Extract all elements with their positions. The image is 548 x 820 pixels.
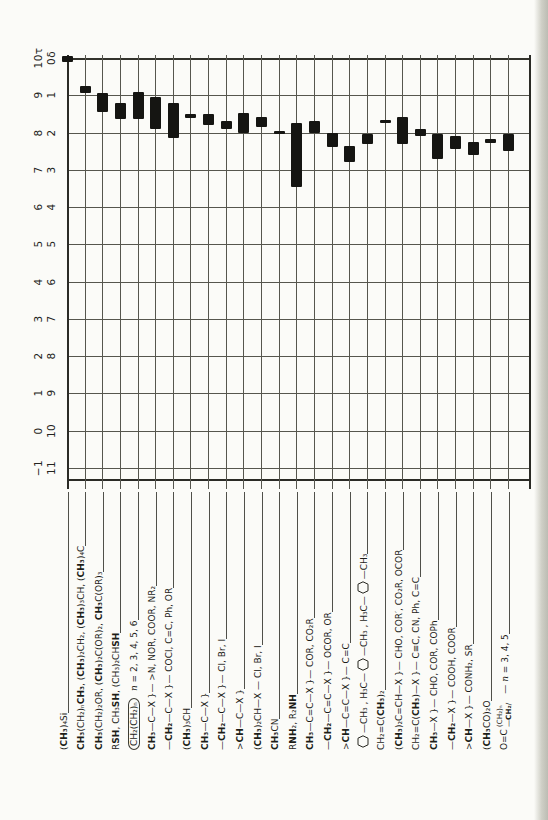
compound-label: CH₃(CH₂)ₙCH₃, (CH₃)₂CH₂, (CH₃)₃CH, (CH₃)… [74,492,88,750]
shift-range-bar [97,93,108,112]
shift-range-bar [468,142,479,155]
grid-line-v [508,55,509,489]
delta-tick-label: 1 [32,76,70,114]
label-rule [434,492,439,620]
compound-label: CH₃—X }— CHO, COR, COPh [427,492,441,750]
label-rule [328,492,333,612]
shift-range-bar [432,134,443,158]
shift-range-bar [168,103,179,138]
compound-label: O=C(CH₂)ₙ—CH₂/— n = 3, 4, 5 [498,492,512,750]
benzene-ring-icon [357,581,369,594]
compound-label: CH₃CN [268,492,282,750]
grid-line-v [349,55,350,489]
grid-line-v [296,55,297,489]
compound-label: (CH₃)₄Si [57,492,71,750]
shift-range-bar [485,139,496,142]
label-rule [399,492,404,550]
compound-formula: CH₂=C(CH₃)—X }— C≡C, CN, Ph, C=C [411,577,421,750]
grid-line-v [85,55,86,489]
label-rule [381,492,386,690]
shift-range-bar [503,134,514,151]
label-rule [205,492,210,693]
label-rule [134,492,139,620]
compound-formula: CH₂(CH₂)ₙn = 2, 3, 4, 5, 6 [129,620,139,750]
label-rule [187,492,192,708]
compound-label: RNH₂, R₂NH [286,492,300,750]
grid-line-v [102,55,103,489]
compound-formula: >CH—C—X } [235,689,245,750]
delta-tick-label: 7 [32,300,70,338]
label-rule [487,492,492,701]
label-rule [222,492,227,639]
label-rule [416,492,421,577]
compound-formula: CH₃—X }— CHO, COR, COPh [429,620,439,750]
shift-range-bar [344,146,355,163]
label-rule [258,492,263,645]
shift-range-bar [362,134,373,143]
scanned-chart-page: 10τ9876543210−1 0δ1234567891011 (CH₃)₄Si… [0,0,548,820]
grid-line-v [420,55,421,489]
compound-formula: (CH₃)₂CH—X — Cl, Br, I [253,645,263,750]
label-rule [64,492,69,713]
compound-formula: (CH₃)₃CH [182,708,192,750]
compound-formula: RSH, CH₃SH, (CH₃)₂CHSH [111,633,121,750]
compound-label: >CH—C—X } [233,492,247,750]
delta-tick-label: 4 [32,188,70,226]
label-rule [116,492,121,633]
delta-tick-label: 0δ [32,39,70,77]
label-rule [152,492,157,586]
compound-formula: —CH₂—C—X }— COCl, C=C, Ph, OR [164,588,174,750]
shift-range-bar [291,123,302,186]
compound-label: (CH₃CO)₂O [480,492,494,750]
compound-label: CH₂(CH₂)ₙn = 2, 3, 4, 5, 6 [127,492,141,750]
delta-tick-label: 5 [32,225,70,263]
label-rule [169,492,174,588]
compound-formula: —CH₃ , H₃C——CH₃ , H₃C——CH₃ [357,554,369,750]
grid-line-v [226,55,227,489]
compound-formula: —CH₂—X }— COOH, COOR [447,627,457,750]
compound-formula: >CH—C=C—X }— C=C [341,643,351,750]
compound-formula: (CH₃CO)₂O [482,701,492,750]
grid-line-v [120,55,121,489]
label-rule [310,492,315,618]
grid-line-v [455,55,456,489]
shift-range-bar [115,103,126,120]
compound-label: —CH₃ , H₃C——CH₃ , H₃C——CH₃ [356,492,370,750]
compound-formula: CH₃CN [270,719,280,750]
label-rule [275,492,280,719]
grid-line-v [279,55,280,489]
compound-label: CH₃—C—X }— >N, NOR, COOR, NR₂ [145,492,159,750]
delta-tick-label: 8 [32,337,70,375]
delta-tick-label: 3 [32,151,70,189]
compound-label: CH₃—C=C—X }— COR, CO₂R [303,492,317,750]
compound-formula: RNH₂, R₂NH [288,694,298,750]
compound-label: >CH—C=C—X }— C=C [339,492,353,750]
shift-range-bar [397,117,408,145]
compound-formula: CH₃—C=C—X }— COR, CO₂R [305,618,315,750]
compound-label: (CH₃)₂C=CH—X }— CHO, COR′, CO₂R, OCOR [392,492,406,750]
grid-line-v [473,55,474,489]
label-rule [99,492,104,572]
shift-range-bar [133,92,144,120]
shift-range-bar [185,114,196,118]
grid-line-v [314,55,315,489]
compound-formula: O=C(CH₂)ₙ—CH₂/— n = 3, 4, 5 [496,634,513,750]
compound-label: (CH₃)₃CH [180,492,194,750]
compound-label: (CH₃)₂CH—X — Cl, Br, I [251,492,265,750]
compound-formula: (CH₃)₄Si [59,713,69,750]
shift-range-bar [327,133,338,148]
shift-range-bar [450,136,461,149]
page-edge-shadow [534,0,548,820]
grid-line-v [490,55,491,489]
label-rule [505,492,510,634]
compound-label: RSH, CH₃SH, (CH₃)₂CHSH [109,492,123,750]
shift-range-bar [221,121,232,128]
compound-formula: CH₃(CH₂)₂OR, (CH₃)₂C(OR)₂, CH₃C(OR)₃ [94,572,104,750]
compound-formula: CH₂=C(CH₃)₂ [376,690,386,750]
grid-line-v [437,55,438,489]
label-rule [81,492,86,546]
benzene-ring-icon [357,658,369,671]
compound-formula: CH₃—C—X } [200,693,210,750]
compound-label: CH₂=C(CH₃)₂ [374,492,388,750]
grid-line-v [190,55,191,489]
